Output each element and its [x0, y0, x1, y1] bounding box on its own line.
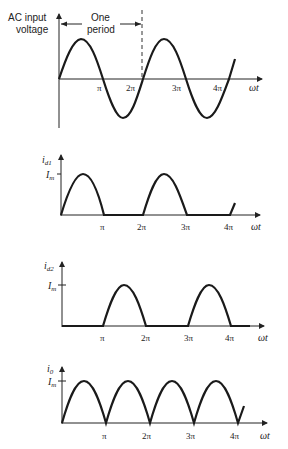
tick-4pi: 4π — [213, 83, 223, 93]
period-label-line2: period — [87, 24, 115, 35]
tick-pi: π — [97, 83, 102, 93]
tick-pi: π — [100, 222, 105, 232]
period-label-line1: One — [91, 12, 110, 23]
y-axis-label: i0 — [47, 363, 54, 376]
im-label: Im — [45, 169, 54, 182]
tick-2pi: 2π — [141, 333, 151, 343]
i0-panel: i0 Im π 2π 3π 4π ωt — [47, 363, 270, 441]
y-axis-label: id2 — [44, 260, 54, 273]
id2-curve — [62, 285, 250, 326]
im-label: Im — [47, 376, 56, 389]
tick-4pi: 4π — [225, 333, 235, 343]
period-arrowhead-right — [135, 22, 141, 27]
tick-pi: π — [102, 431, 107, 441]
ac-input-panel: AC input voltage One period π 2π 3π 4π ω… — [8, 10, 262, 128]
tick-2pi: 2π — [137, 222, 147, 232]
im-label: Im — [47, 280, 56, 293]
y-axis-label-line1: AC input — [8, 12, 47, 23]
period-arrowhead-left — [61, 22, 67, 27]
tick-pi: π — [100, 333, 105, 343]
tick-4pi: 4π — [230, 431, 240, 441]
x-axis-label: ωt — [249, 82, 259, 93]
id2-panel: id2 Im π 2π 3π 4π ωt — [44, 260, 268, 343]
tick-3pi: 3π — [172, 83, 182, 93]
x-axis-label: ωt — [260, 430, 270, 441]
rectifier-waveforms-diagram: AC input voltage One period π 2π 3π 4π ω… — [0, 0, 288, 449]
tick-3pi: 3π — [181, 222, 191, 232]
tick-3pi: 3π — [184, 333, 194, 343]
tick-3pi: 3π — [186, 431, 196, 441]
id1-panel: id1 Im π 2π 3π 4π ωt — [42, 154, 261, 232]
x-axis-label: ωt — [258, 332, 268, 343]
tick-4pi: 4π — [224, 222, 234, 232]
id1-curve — [61, 174, 235, 215]
tick-2pi: 2π — [126, 83, 136, 93]
tick-2pi: 2π — [142, 431, 152, 441]
x-axis-label: ωt — [251, 221, 261, 232]
y-axis-label: id1 — [42, 154, 52, 167]
y-axis-label-line2: voltage — [16, 24, 49, 35]
i0-curve — [62, 381, 244, 423]
